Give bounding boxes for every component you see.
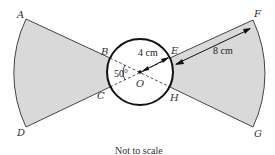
measure-8cm: 8 cm [213,45,233,56]
label-C: C [97,90,105,101]
label-B: B [100,46,108,57]
label-D: D [16,127,25,138]
label-O: O [136,78,144,89]
label-E: E [170,45,179,56]
label-H: H [169,92,179,103]
centre-point-O [138,70,142,74]
measure-angle-50: 50° [114,68,128,79]
measure-4cm: 4 cm [138,47,158,58]
label-A: A [16,9,24,20]
label-F: F [253,8,262,19]
label-G: G [254,128,262,139]
geometry-diagram: A B C D E F G H O 4 cm 8 cm 50° Not to s… [0,0,275,155]
caption-not-to-scale: Not to scale [115,145,163,155]
